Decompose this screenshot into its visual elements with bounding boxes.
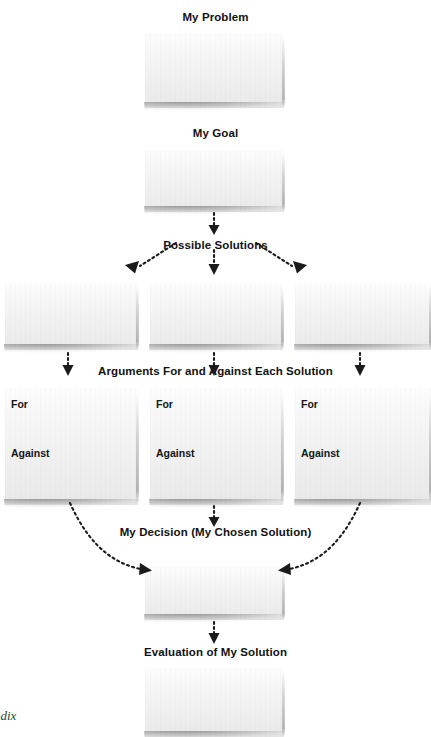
solution-box-3[interactable] [295, 283, 431, 350]
stage-label-arguments: Arguments For and Against Each Solution [0, 366, 431, 378]
diagram-page: My Problem My Goal Possible Solutions Ar… [0, 0, 431, 737]
arrow-goal-to-possible-solutions [209, 213, 220, 235]
arrow-argument-1-to-decision [70, 503, 152, 575]
arrow-argument-2-to-decision [209, 506, 220, 527]
paper-edge-shade [282, 569, 285, 619]
stage-label-problem: My Problem [0, 12, 431, 24]
goal-write-box[interactable] [145, 150, 284, 212]
evaluation-write-box[interactable] [145, 668, 284, 737]
decision-write-box[interactable] [145, 566, 284, 620]
solution-box-2[interactable] [150, 283, 283, 350]
argument-2-for-label: For [156, 399, 173, 410]
solution-box-1[interactable] [5, 283, 138, 350]
argument-1-for-label: For [11, 399, 28, 410]
paper-edge-shade [281, 395, 284, 503]
arrow-decision-to-evaluation [209, 622, 220, 644]
paper-edge-shade [136, 395, 139, 503]
argument-3-for-label: For [301, 399, 318, 410]
argument-1-against-label: Against [11, 448, 50, 459]
stage-label-decision: My Decision (My Chosen Solution) [0, 527, 431, 539]
argument-2-against-label: Against [156, 448, 195, 459]
arrow-argument-3-to-decision [278, 503, 360, 575]
stage-label-goal: My Goal [0, 128, 431, 140]
paper-edge-shade [282, 154, 285, 211]
paper-edge-shade [282, 38, 285, 107]
arrow-possible-solutions-to-solution-2 [209, 250, 220, 275]
page-footer-partial-text: ndix [0, 708, 16, 724]
stage-label-evaluation: Evaluation of My Solution [0, 647, 431, 659]
argument-3-against-label: Against [301, 448, 340, 459]
paper-edge-shade [281, 287, 284, 349]
problem-write-box[interactable] [145, 33, 284, 108]
paper-edge-shade [282, 672, 285, 735]
stage-label-possible-solutions: Possible Solutions [0, 240, 431, 252]
paper-edge-shade [136, 287, 139, 349]
